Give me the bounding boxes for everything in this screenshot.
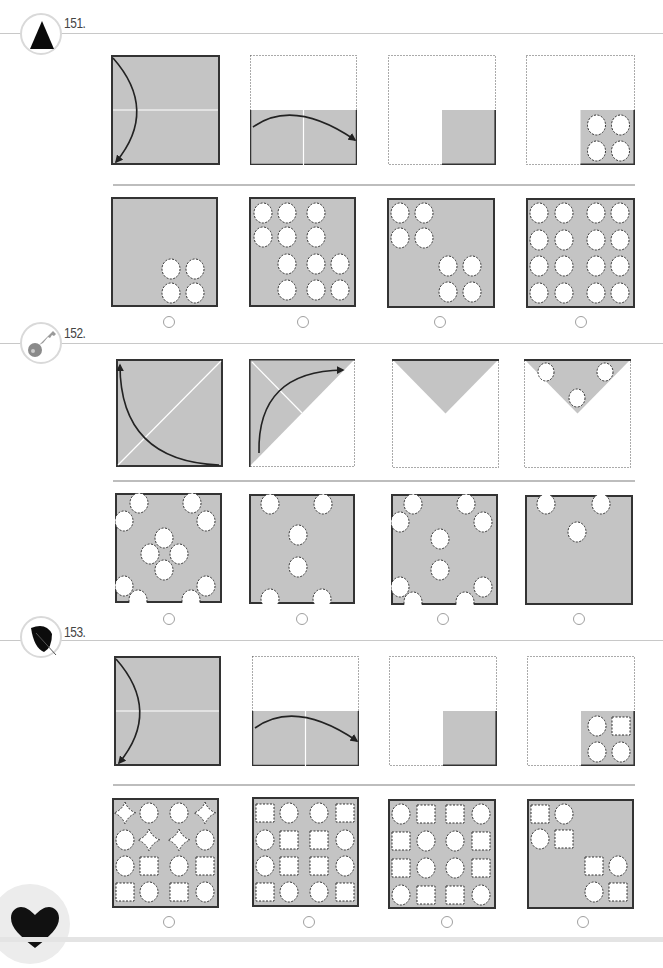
fold-step-3	[392, 359, 499, 468]
answer-option-4[interactable]	[527, 799, 634, 909]
answer-radio-1[interactable]	[163, 916, 175, 928]
fold-step-1	[114, 656, 221, 766]
fold-step-4	[526, 55, 635, 165]
answer-option-1[interactable]	[111, 197, 218, 307]
fold-step-2	[250, 55, 357, 165]
answer-option-3[interactable]	[391, 494, 498, 605]
answer-radio-3[interactable]	[441, 916, 453, 928]
fold-step-4	[524, 359, 631, 468]
answer-radio-2[interactable]	[303, 916, 315, 928]
answer-radio-4[interactable]	[577, 916, 589, 928]
leaf-icon	[22, 618, 64, 660]
triangle-icon	[22, 15, 64, 57]
fold-step-2	[252, 656, 359, 766]
answer-option-2[interactable]	[249, 494, 355, 604]
key-icon	[22, 324, 64, 366]
answer-option-3[interactable]	[388, 799, 496, 909]
answer-radio-4[interactable]	[573, 613, 585, 625]
answer-radio-2[interactable]	[296, 613, 308, 625]
question-badge	[20, 13, 62, 55]
question-badge	[20, 322, 62, 364]
fold-step-4	[527, 656, 635, 766]
answer-separator	[113, 784, 635, 786]
answer-option-4[interactable]	[526, 198, 635, 308]
answer-option-1[interactable]	[115, 493, 222, 603]
answer-radio-3[interactable]	[437, 613, 449, 625]
answer-radio-1[interactable]	[163, 613, 175, 625]
question-number: 152.	[64, 325, 88, 341]
answer-separator	[113, 184, 635, 186]
answer-radio-2[interactable]	[297, 316, 309, 328]
question-divider	[0, 640, 663, 641]
fold-step-3	[388, 55, 496, 165]
question-number: 151.	[64, 15, 88, 31]
heart-badge	[0, 884, 70, 964]
fold-step-3	[389, 656, 497, 766]
fold-step-1	[116, 359, 223, 467]
answer-option-1[interactable]	[112, 798, 219, 908]
page-bottom-strip	[0, 937, 663, 942]
answer-option-2[interactable]	[252, 797, 359, 907]
answer-option-4[interactable]	[525, 495, 633, 605]
answer-radio-4[interactable]	[575, 316, 587, 328]
answer-option-2[interactable]	[249, 197, 356, 307]
fold-step-1	[111, 55, 220, 165]
answer-radio-3[interactable]	[434, 316, 446, 328]
heart-icon	[0, 884, 70, 964]
question-badge	[20, 616, 62, 658]
question-divider	[0, 343, 663, 344]
answer-separator	[113, 480, 635, 482]
question-divider	[0, 33, 663, 34]
question-number: 153.	[64, 624, 88, 640]
answer-radio-1[interactable]	[163, 316, 175, 328]
answer-option-3[interactable]	[387, 198, 495, 308]
fold-step-2	[249, 359, 355, 467]
